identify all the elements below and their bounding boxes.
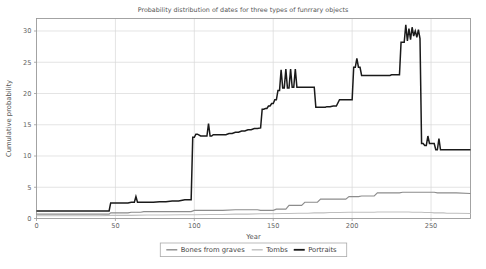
x-tick-label: 50 (111, 222, 119, 230)
y-tick-label: 25 (23, 59, 31, 67)
legend-label-portraits: Portraits (308, 246, 337, 254)
y-tick-label: 15 (23, 121, 31, 129)
x-tick-label: 0 (34, 222, 38, 230)
x-tick-label: 150 (267, 222, 280, 230)
x-tick-label: 200 (346, 222, 359, 230)
x-tick-label: 250 (425, 222, 438, 230)
chart-legend: Bones from gravesTombsPortraits (160, 243, 346, 257)
y-tick-label: 5 (27, 184, 31, 192)
y-tick-label: 30 (23, 27, 31, 35)
x-tick-label: 100 (188, 222, 201, 230)
legend-label-bones-from-graves: Bones from graves (181, 246, 245, 254)
funerary-objects-line-chart: Probability distribution of dates for th… (0, 0, 486, 269)
x-axis-label: Year (245, 233, 261, 241)
y-tick-label: 10 (23, 152, 31, 160)
y-axis-label: Cumulative probability (5, 80, 13, 157)
y-tick-label: 20 (23, 90, 31, 98)
legend-label-tombs: Tombs (265, 246, 288, 254)
chart-container: Probability distribution of dates for th… (0, 0, 486, 269)
chart-background (0, 0, 486, 269)
y-tick-label: 0 (27, 215, 31, 223)
chart-title: Probability distribution of dates for th… (138, 6, 349, 14)
